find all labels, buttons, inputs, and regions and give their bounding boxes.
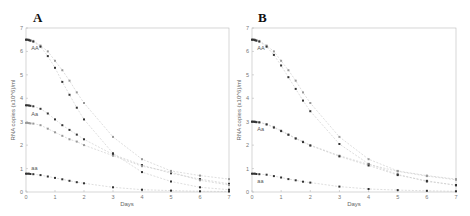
y-tick-label: 6 [20,48,23,54]
data-point-marker [170,171,172,173]
data-point-marker [29,40,31,42]
data-point-marker [280,60,282,62]
curve-label: AA [31,45,39,51]
data-point-marker [368,188,370,190]
data-point-marker [338,155,340,157]
data-point-marker [112,136,114,138]
data-point-marker [69,138,71,140]
data-point-marker [47,128,49,130]
data-point-marker [455,190,457,192]
data-point-marker [47,176,49,178]
curve-label: Aa [257,126,265,132]
data-point-marker [309,110,311,112]
data-point-marker [255,40,257,42]
y-tick-label: 5 [246,72,249,78]
x-tick-label: 3 [338,194,341,200]
data-point-marker [280,130,282,132]
panel-b-letter: B [258,10,267,25]
y-tick-label: 7 [20,25,23,31]
x-tick-label: 5 [169,194,172,200]
x-tick-label: 1 [280,194,283,200]
data-point-marker [426,180,428,182]
data-point-marker [287,134,289,136]
series-line [26,174,229,192]
data-point-marker [199,175,201,177]
data-point-marker [76,141,78,143]
data-point-marker [266,174,268,176]
data-point-marker [338,186,340,188]
x-tick-label: 6 [198,194,201,200]
data-point-marker [228,189,230,191]
y-tick-label: 6 [246,48,249,54]
series-line [26,40,229,179]
data-point-marker [302,91,304,93]
data-point-marker [47,55,49,57]
data-point-marker [295,80,297,82]
data-point-marker [302,141,304,143]
data-point-marker [141,189,143,191]
data-point-marker [54,118,56,120]
curve-labels: AAAaaa [257,45,265,183]
data-point-marker [29,105,31,107]
data-point-marker [199,190,201,192]
data-point-marker [266,46,268,48]
data-point-marker [368,158,370,160]
data-point-marker [199,186,201,188]
data-point-marker [397,174,399,176]
data-point-marker [69,80,71,82]
data-curves [25,39,230,193]
y-tick-label: 0 [20,189,23,195]
data-point-marker [455,179,457,181]
data-point-marker [76,107,78,109]
data-point-marker [83,118,85,120]
data-point-marker [266,124,268,126]
panel-b: B 0123456701234567 AAAaaa Days RNA copie… [236,10,458,207]
data-point-marker [280,177,282,179]
data-point-marker [302,100,304,102]
y-tick-label: 4 [246,95,249,101]
data-point-marker [302,181,304,183]
data-point-marker [69,180,71,182]
series-line [252,174,456,192]
data-point-marker [29,122,31,124]
data-point-marker [280,65,282,67]
data-point-marker [273,54,275,56]
y-axis-label: RNA copies (x10^6)/ml [10,80,16,141]
data-point-marker [83,144,85,146]
data-point-marker [228,184,230,186]
series-line [252,122,456,180]
data-point-marker [47,113,49,115]
panel-a-letter: A [33,10,43,25]
data-point-marker [287,178,289,180]
axis-ticks: 0123456701234567 [20,25,231,200]
x-tick-label: 4 [140,194,143,200]
data-point-marker [295,88,297,90]
data-point-marker [29,173,31,175]
x-tick-label: 0 [250,194,253,200]
data-point-marker [112,186,114,188]
curve-label: aa [257,178,264,184]
data-point-marker [54,67,56,69]
data-point-marker [83,138,85,140]
data-point-marker [112,155,114,157]
data-point-marker [76,91,78,93]
data-point-marker [61,69,63,71]
data-point-marker [258,121,260,123]
x-axis-label: Days [120,201,134,207]
data-curves [251,39,457,193]
data-point-marker [40,174,42,176]
data-point-marker [61,124,63,126]
series-line [252,40,456,179]
series-line [26,123,229,185]
y-tick-label: 7 [246,25,249,31]
y-tick-label: 3 [246,119,249,125]
x-tick-label: 2 [82,194,85,200]
x-tick-label: 3 [111,194,114,200]
data-point-marker [54,177,56,179]
data-point-marker [83,182,85,184]
data-point-marker [69,94,71,96]
data-point-marker [76,134,78,136]
data-point-marker [397,170,399,172]
data-point-marker [338,143,340,145]
data-point-marker [40,108,42,110]
